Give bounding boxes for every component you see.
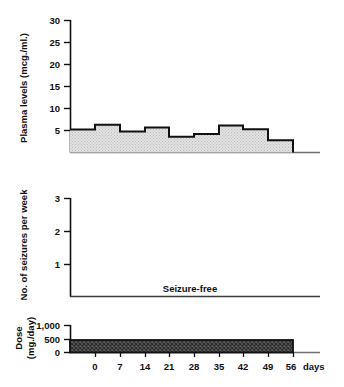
dose-ytick-label-500: 500 xyxy=(44,334,60,345)
xtick-label-14: 14 xyxy=(140,361,151,372)
dose-y-axis-title-line2: (mg./day) xyxy=(25,317,36,359)
dose-bar xyxy=(70,340,293,353)
xtick-label-35: 35 xyxy=(214,361,225,372)
three-panel-chart-svg: Plasma levels (mcg./ml.) 30 25 20 15 10 … xyxy=(0,0,344,387)
xtick-label-28: 28 xyxy=(189,361,200,372)
xtick-label-21: 21 xyxy=(164,361,175,372)
xtick-label-7: 7 xyxy=(117,361,122,372)
plasma-ytick-label-30: 30 xyxy=(49,15,60,26)
plasma-ytick-label-20: 20 xyxy=(49,59,60,70)
seizure-y-axis-title: No. of seizures per week xyxy=(18,189,29,301)
plasma-ytick-label-25: 25 xyxy=(49,37,60,48)
xtick-label-42: 42 xyxy=(238,361,249,372)
seizure-ytick-label-2: 2 xyxy=(55,226,60,237)
plasma-y-axis-title: Plasma levels (mcg./ml.) xyxy=(18,33,29,143)
dose-y-axis-title-line1: Dose xyxy=(13,326,24,349)
seizure-free-annotation: Seizure-free xyxy=(163,283,217,294)
xtick-label-0: 0 xyxy=(92,361,97,372)
dose-ytick-label-1000: 1,000 xyxy=(36,320,60,331)
seizure-ytick-label-3: 3 xyxy=(55,193,60,204)
plasma-ytick-label-10: 10 xyxy=(49,103,60,114)
plasma-ytick-label-5: 5 xyxy=(55,125,61,136)
xtick-label-49: 49 xyxy=(263,361,274,372)
xtick-label-56: 56 xyxy=(286,361,297,372)
clinical-trial-figure: Plasma levels (mcg./ml.) 30 25 20 15 10 … xyxy=(0,0,344,387)
x-axis-unit-label: days xyxy=(303,361,325,372)
plasma-ytick-label-15: 15 xyxy=(49,81,60,92)
dose-ytick-label-0: 0 xyxy=(55,347,60,358)
seizure-ytick-label-1: 1 xyxy=(55,259,61,270)
